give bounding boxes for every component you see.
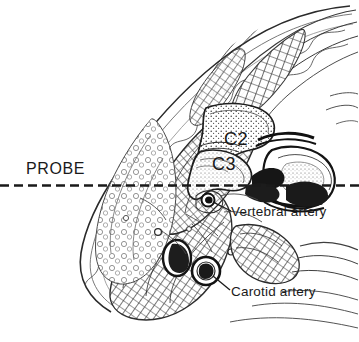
vertebral-artery-label: Vertebral artery — [231, 205, 327, 219]
c3-label: C3 — [212, 155, 236, 173]
leader-dot-vertebral — [205, 196, 212, 203]
anatomical-figure: PROBE C2 C3 Vertebral artery Carotid art… — [0, 0, 359, 342]
c2-label: C2 — [224, 130, 248, 148]
jugular-vein-vessel — [163, 240, 191, 276]
probe-label: PROBE — [26, 161, 85, 177]
carotid-artery-label: Carotid artery — [231, 285, 316, 299]
carotid-artery-vessel — [192, 257, 220, 285]
